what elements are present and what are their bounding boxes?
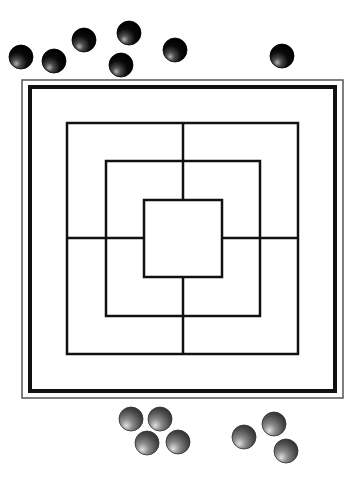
gray-piece[interactable]: [166, 430, 190, 454]
black-piece[interactable]: [9, 45, 33, 69]
black-piece[interactable]: [270, 44, 294, 68]
gray-piece[interactable]: [119, 407, 143, 431]
black-piece[interactable]: [42, 49, 66, 73]
black-piece[interactable]: [109, 53, 133, 77]
black-piece[interactable]: [117, 21, 141, 45]
gray-piece[interactable]: [148, 407, 172, 431]
game-canvas: [0, 0, 358, 479]
black-piece[interactable]: [163, 38, 187, 62]
black-piece[interactable]: [72, 28, 96, 52]
gray-piece[interactable]: [232, 425, 256, 449]
black-pieces-group: [9, 21, 294, 77]
gray-piece[interactable]: [274, 439, 298, 463]
game-board: [22, 80, 343, 398]
gray-piece[interactable]: [135, 431, 159, 455]
gray-pieces-group: [119, 407, 298, 463]
board-square-inner: [144, 200, 222, 277]
gray-piece[interactable]: [262, 412, 286, 436]
board-connectors: [67, 123, 298, 354]
